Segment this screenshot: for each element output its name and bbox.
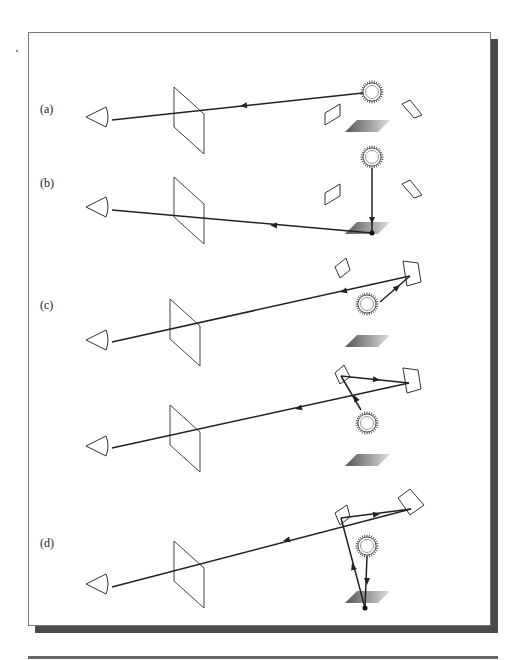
light-ray <box>341 376 361 410</box>
eye-icon <box>86 330 108 350</box>
eye-outline <box>86 330 106 350</box>
surface-patch <box>403 261 421 286</box>
eye-lens <box>106 107 108 127</box>
image-plane <box>174 87 204 154</box>
floor-surface <box>345 335 390 347</box>
panel-2: (c) <box>40 258 421 366</box>
surface-patch <box>402 180 422 198</box>
panel-3 <box>86 365 421 472</box>
surface-patch <box>402 100 422 118</box>
surface-patch <box>403 368 421 393</box>
arrow-head-icon <box>240 102 247 108</box>
sun-inner <box>361 417 374 430</box>
eye-lens <box>106 330 108 350</box>
light-ray <box>112 210 372 233</box>
panel-4: (d) <box>40 489 424 611</box>
eye-lens <box>106 436 108 456</box>
panel-label: (b) <box>40 176 54 190</box>
panel-label: (a) <box>40 102 53 116</box>
eye-outline <box>86 574 106 594</box>
image-plane <box>170 299 200 366</box>
light-path-diagram: (a)(b)(c)(d) <box>0 0 531 660</box>
surface-patch <box>325 184 340 205</box>
arrow-head-icon <box>364 578 370 585</box>
arrow-head-icon <box>340 288 347 294</box>
eye-outline <box>86 436 106 456</box>
floor-surface <box>345 454 390 466</box>
floor-surface <box>345 120 390 132</box>
surface-patch <box>325 104 340 125</box>
panel-label: (d) <box>40 536 54 550</box>
eye-lens <box>106 197 108 217</box>
hit-point <box>370 231 375 236</box>
hit-point <box>363 606 368 611</box>
surface-patch <box>335 258 350 278</box>
image-plane <box>170 405 200 472</box>
panel-label: (c) <box>40 298 53 312</box>
eye-outline <box>86 197 106 217</box>
light-source-icon <box>356 412 379 435</box>
sun-inner <box>366 151 379 164</box>
light-ray <box>341 518 365 608</box>
eye-icon <box>86 436 108 456</box>
panel-0: (a) <box>40 81 422 155</box>
sun-inner <box>361 298 374 311</box>
light-source-icon <box>361 146 384 169</box>
sun-inner <box>366 86 379 99</box>
panel-1: (b) <box>40 146 422 245</box>
eye-icon <box>86 197 108 217</box>
light-source-icon <box>361 81 384 104</box>
eye-lens <box>106 574 108 594</box>
eye-icon <box>86 107 108 127</box>
floor-surface <box>345 591 390 603</box>
surface-patch <box>335 365 350 384</box>
sun-inner <box>361 540 374 553</box>
light-source-icon <box>356 535 379 558</box>
eye-icon <box>86 574 108 594</box>
image-plane <box>174 177 204 244</box>
light-source-icon <box>356 293 379 316</box>
image-plane <box>174 541 204 608</box>
eye-outline <box>86 107 106 127</box>
